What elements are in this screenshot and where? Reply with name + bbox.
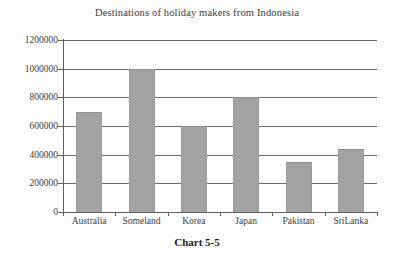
y-axis-line: [63, 39, 64, 213]
x-axis-label-australia: Australia: [72, 216, 107, 226]
y-axis-label: 1200000: [0, 35, 58, 45]
y-axis-tick: [58, 183, 63, 184]
chart-title: Destinations of holiday makers from Indo…: [0, 7, 394, 18]
gridline: [63, 126, 377, 127]
gridline: [63, 40, 377, 41]
gridline: [63, 183, 377, 184]
bar-australia: [76, 112, 102, 212]
gridline: [63, 97, 377, 98]
bar-korea: [181, 126, 207, 212]
chart-figure: Destinations of holiday makers from Indo…: [0, 0, 394, 265]
plot-area: [63, 40, 377, 212]
x-axis-tick: [220, 212, 221, 216]
y-axis-tick: [58, 69, 63, 70]
bar-japan: [233, 97, 259, 212]
x-axis-tick: [377, 212, 378, 216]
y-axis-label: 600000: [0, 121, 58, 131]
y-axis-label: 200000: [0, 178, 58, 188]
y-axis-label: 400000: [0, 150, 58, 160]
y-axis-label: 1000000: [0, 64, 58, 74]
x-axis-label-korea: Korea: [182, 216, 205, 226]
y-axis-tick: [58, 40, 63, 41]
x-axis-tick: [63, 212, 64, 216]
x-axis-label-srilanka: SriLanka: [333, 216, 368, 226]
x-axis-tick: [168, 212, 169, 216]
x-axis-label-someland: Someland: [123, 216, 161, 226]
y-axis-tick: [58, 97, 63, 98]
gridline: [63, 155, 377, 156]
y-axis-tick: [58, 155, 63, 156]
gridline: [63, 69, 377, 70]
x-axis-label-pakistan: Pakistan: [282, 216, 314, 226]
x-axis-tick: [115, 212, 116, 216]
bar-someland: [129, 69, 155, 212]
x-axis-label-japan: Japan: [235, 216, 257, 226]
x-axis-tick: [272, 212, 273, 216]
x-axis-tick: [325, 212, 326, 216]
y-axis-tick: [58, 126, 63, 127]
bar-pakistan: [286, 162, 312, 212]
bar-srilanka: [338, 149, 364, 212]
y-axis-label: 800000: [0, 92, 58, 102]
y-axis-label: 0: [0, 207, 58, 217]
chart-caption: Chart 5-5: [0, 236, 394, 248]
